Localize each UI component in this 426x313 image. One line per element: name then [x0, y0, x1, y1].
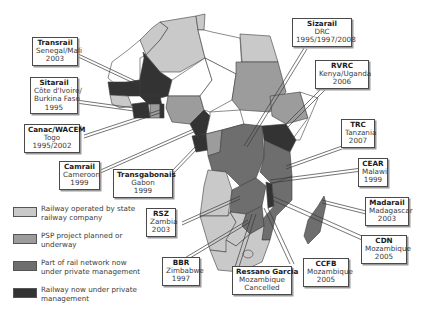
- label-transgabonais: Transgabonais Gabon 1999: [113, 169, 173, 198]
- label-rsz: RSZ Zambia 2003: [146, 208, 176, 237]
- region-senegal: [108, 80, 140, 96]
- label-madarail: Madarail Madagascar 2003: [365, 197, 409, 226]
- label-camrail: Camrail Cameroon 1999: [59, 161, 100, 190]
- region-lesotho: [243, 250, 253, 258]
- label-bbr: BBR Zimbabwe 1997: [162, 257, 200, 286]
- legend-swatch-psp: [13, 234, 37, 244]
- region-togo: [160, 104, 164, 118]
- label-ccfb: CCFB Mozambique 2005: [303, 258, 349, 287]
- legend-item-private: Railway now under private management: [13, 286, 143, 313]
- label-sitarail: Sitarail Côte d'Ivoire/ Burkina Faso 199…: [30, 77, 78, 114]
- label-canac-wacem: Canac/WACEM Togo 1995/2002: [24, 124, 80, 153]
- label-cdn: CDN Mozambique 2005: [361, 235, 407, 264]
- legend-swatch-private: [13, 288, 37, 298]
- legend-swatch-state: [13, 207, 37, 217]
- region-angola: [200, 170, 232, 216]
- label-cear: CEAR Malawi 1999: [358, 158, 388, 187]
- region-egypt: [240, 34, 278, 62]
- map-legend: Railway operated by state railway compan…: [13, 205, 143, 313]
- legend-swatch-part-private: [13, 261, 37, 271]
- label-transrail: Transrail Senegal/Mali 2003: [32, 37, 78, 66]
- legend-item-part-private: Part of rail network now under private m…: [13, 259, 143, 286]
- region-cote-divoire: [132, 102, 150, 118]
- legend-item-psp: PSP project planned or underway: [13, 232, 143, 259]
- label-ressano-garcia: Ressano Garcia Mozambique Cancelled: [232, 266, 292, 295]
- region-gabon: [192, 134, 208, 152]
- label-rvrc: RVRC Kenya/Uganda 2006: [315, 60, 369, 89]
- label-sizarail: Sizarail DRC 1995/1997/2008: [292, 18, 352, 47]
- legend-item-state: Railway operated by state railway compan…: [13, 205, 143, 232]
- label-trc: TRC Tanzania 2007: [341, 119, 375, 148]
